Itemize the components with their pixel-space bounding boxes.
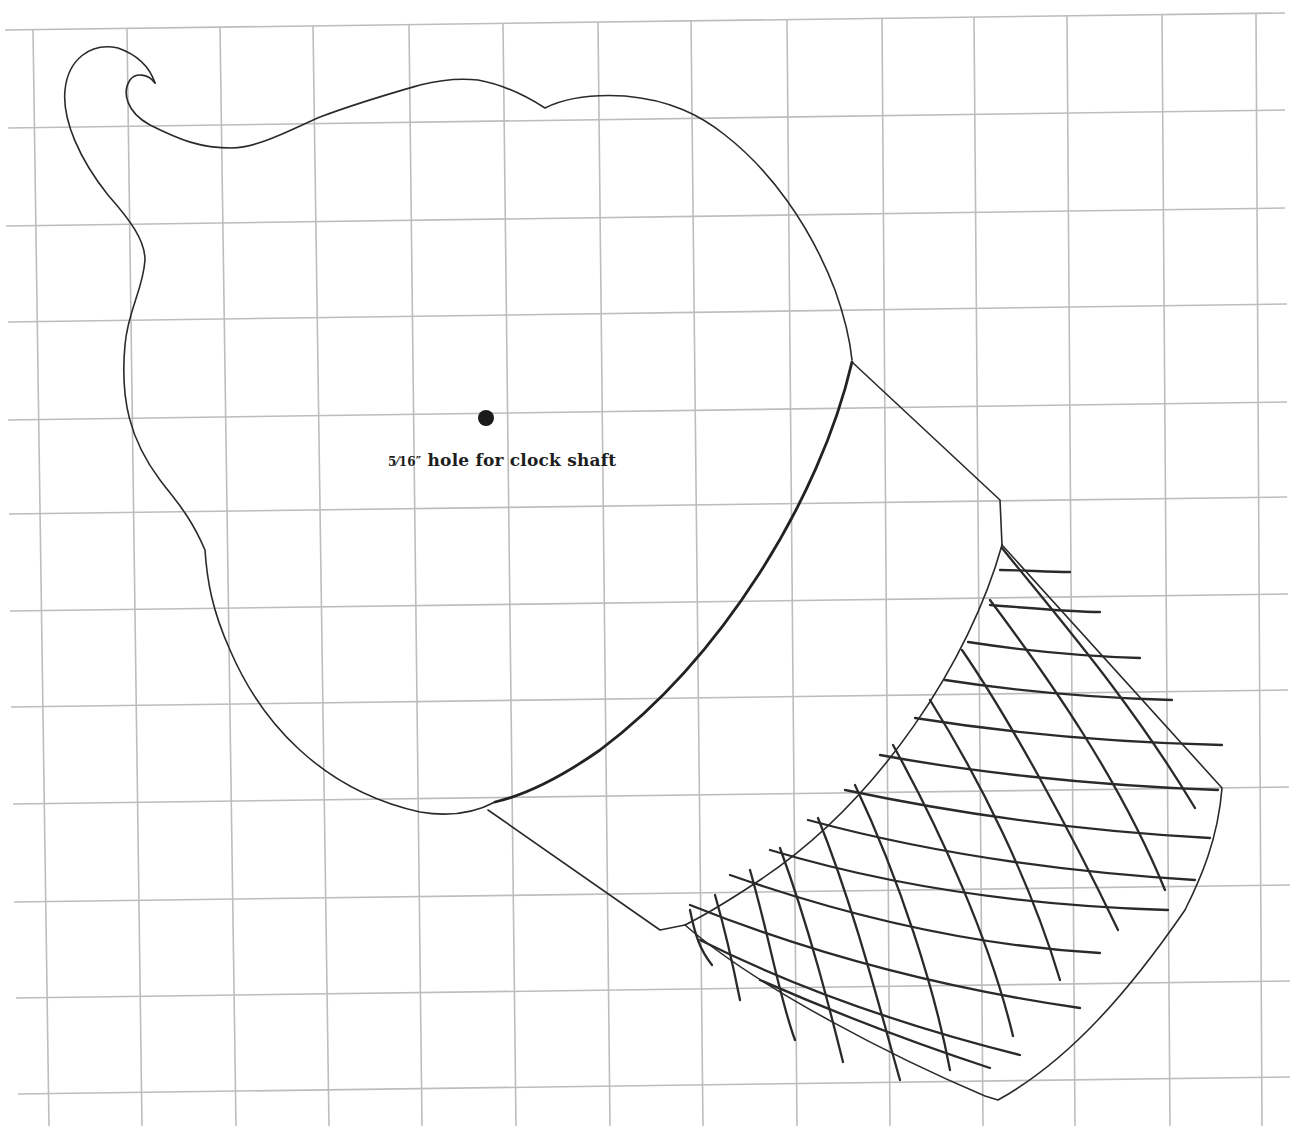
hole-label-text: hole for clock shaft [421,450,616,470]
cap-band [488,362,1002,930]
hole-size-fraction: 5⁄16″ [388,455,421,469]
shaft-hole-label: 5⁄16″ hole for clock shaft [388,450,616,470]
shaft-hole-dot [478,410,494,426]
background-grid [5,13,1290,1126]
pattern-diagram [0,0,1302,1140]
cap-crosshatch [685,545,1222,1100]
